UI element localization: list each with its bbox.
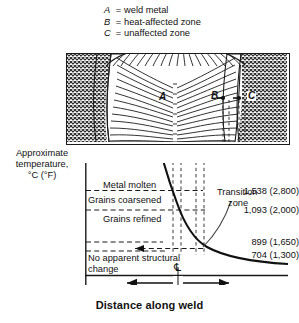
y-axis-title-line1: Approximate (2, 148, 82, 159)
x-axis-label: Distance along weld (0, 299, 299, 311)
legend-key-a: A (104, 5, 113, 17)
band-label-grains-refined: Grains refined (103, 214, 161, 225)
legend-eq-b: = (113, 17, 124, 29)
weld-cross-section: A B C (66, 53, 290, 145)
y-axis-title-line2: temperature, (2, 159, 82, 170)
legend-label-b: heat-affected zone (124, 17, 201, 27)
y-axis-title-line3: °C (°F) (2, 170, 82, 181)
legend-item-b: B=heat-affected zone (104, 17, 274, 29)
weld-zone-label-c: C (247, 91, 256, 101)
weld-zone-label-b: B (211, 91, 218, 101)
band-label-no-change-line1: No apparent structural (88, 253, 180, 264)
legend-label-a: weld metal (124, 5, 168, 15)
transition-zone-label-line1: Transition (217, 187, 257, 198)
legend-eq-a: = (113, 5, 124, 17)
legend-eq-c: = (113, 28, 124, 40)
legend-item-c: C=unaffected zone (104, 28, 274, 40)
transition-zone-label-line2: zone (228, 198, 248, 209)
distance-span-arrows (127, 275, 229, 285)
legend-label-c: unaffected zone (124, 28, 190, 38)
legend-key-b: B (104, 17, 113, 29)
legend-key-c: C (104, 28, 113, 40)
band-label-no-change-line2: change (88, 264, 119, 275)
transition-zone-leader (203, 201, 231, 247)
centerline-symbol: ℄ (174, 262, 181, 273)
legend: A=weld metal B=heat-affected zone C=unaf… (104, 5, 274, 40)
weld-crown-outline (107, 54, 245, 65)
weld-zone-label-a: A (159, 92, 166, 102)
temperature-plot: Metal molten Grains coarsened Grains ref… (85, 163, 288, 285)
band-label-grains-coarsened: Grains coarsened (88, 195, 161, 206)
legend-item-a: A=weld metal (104, 5, 274, 17)
weld-temperature-figure: A=weld metal B=heat-affected zone C=unaf… (0, 0, 299, 323)
band-label-metal-molten: Metal molten (103, 180, 156, 191)
y-axis-title: Approximate temperature, °C (°F) (2, 148, 82, 181)
